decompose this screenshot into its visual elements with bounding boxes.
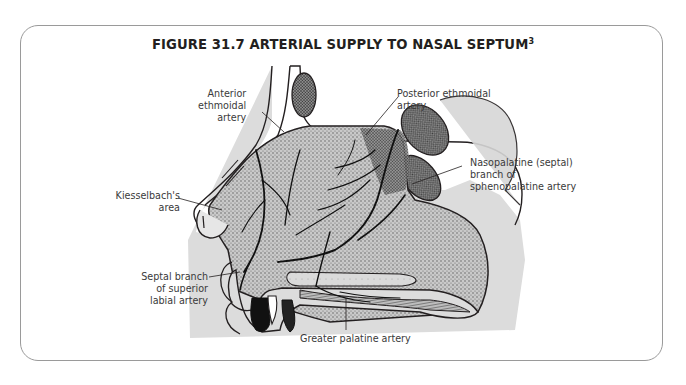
label-nasopalatine-branch: Nasopalatine (septal) branch of sphenopa… [470, 157, 576, 193]
label-greater-palatine-artery: Greater palatine artery [300, 333, 411, 345]
label-line: artery [397, 100, 491, 112]
label-line: Anterior [198, 88, 246, 100]
label-line: labial artery [140, 295, 208, 307]
frontal-sinus [292, 73, 316, 117]
label-line: of superior [140, 283, 208, 295]
label-line: Nasopalatine (septal) [470, 157, 576, 169]
label-kiesselbachs-area: Kiesselbach's area [114, 190, 180, 214]
nasal-septum-illustration [0, 0, 686, 385]
label-septal-branch-superior-labial: Septal branch of superior labial artery [140, 271, 208, 307]
label-line: sphenopalatine artery [470, 181, 576, 193]
label-anterior-ethmoidal-artery: Anterior ethmoidal artery [198, 88, 246, 124]
label-line: artery [198, 112, 246, 124]
label-line: Kiesselbach's [114, 190, 180, 202]
label-line: Greater palatine artery [300, 333, 411, 345]
label-line: branch of [470, 169, 576, 181]
label-posterior-ethmoidal-artery: Posterior ethmoidal artery [397, 88, 491, 112]
label-line: area [114, 202, 180, 214]
label-line: Septal branch [140, 271, 208, 283]
label-line: Posterior ethmoidal [397, 88, 491, 100]
label-line: ethmoidal [198, 100, 246, 112]
